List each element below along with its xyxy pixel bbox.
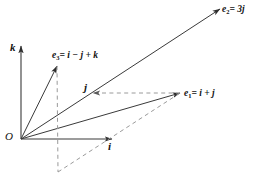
construction-lines-group [57, 66, 180, 172]
construction-diagonal-to-e1 [58, 93, 180, 172]
vector-e2-label-subscript: 2 [226, 8, 229, 15]
vector-e1-label-subscript: 1 [188, 92, 191, 99]
vector-e3-label: e3= i − j + k [52, 51, 98, 61]
vector-e1-label: e1= i + j [184, 89, 215, 99]
vector-e1-label-expression: = i + j [191, 88, 214, 98]
vector-e3-label-subscript: 3 [56, 54, 59, 61]
i-axis-label: i [108, 141, 111, 152]
vector-e3-line [21, 66, 57, 139]
origin-label: O [5, 131, 13, 142]
k-axis-label: k [10, 42, 16, 53]
vectors-group [21, 9, 220, 139]
j-component-label: j [84, 82, 87, 93]
construction-vertical-drop [57, 66, 58, 172]
vector-e2-label: e2= 3j [222, 5, 245, 15]
vector-diagram-figure: O k i j e1= i + j e2= 3j e3= i − j + k [0, 0, 265, 189]
vector-e1-line [21, 93, 180, 139]
vector-e2-label-expression: = 3j [229, 4, 244, 14]
diagram-canvas [0, 0, 265, 189]
vector-e3-label-expression: = i − j + k [59, 50, 98, 60]
vector-e2-line [21, 9, 220, 139]
